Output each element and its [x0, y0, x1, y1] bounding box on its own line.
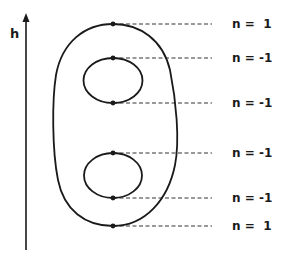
level-label-3: n = -1: [232, 96, 272, 110]
critical-point-5: [111, 196, 116, 201]
axis-label-h: h: [10, 27, 19, 41]
level-label-6: n = 1: [232, 219, 271, 233]
critical-point-2: [111, 56, 116, 61]
critical-point-4: [111, 151, 116, 156]
critical-points: [111, 22, 116, 229]
lower-inner-contour: [84, 153, 142, 198]
level-label-4: n = -1: [232, 146, 272, 160]
critical-point-3: [111, 101, 116, 106]
critical-point-1: [111, 22, 116, 27]
outer-contour: [53, 24, 177, 226]
level-label-1: n = 1: [232, 17, 271, 31]
critical-point-6: [111, 224, 116, 229]
arrow-up-icon: [23, 13, 30, 22]
upper-inner-contour: [84, 58, 143, 103]
level-label-2: n = -1: [232, 51, 272, 65]
level-label-5: n = -1: [232, 191, 272, 205]
h-axis: [23, 13, 30, 250]
